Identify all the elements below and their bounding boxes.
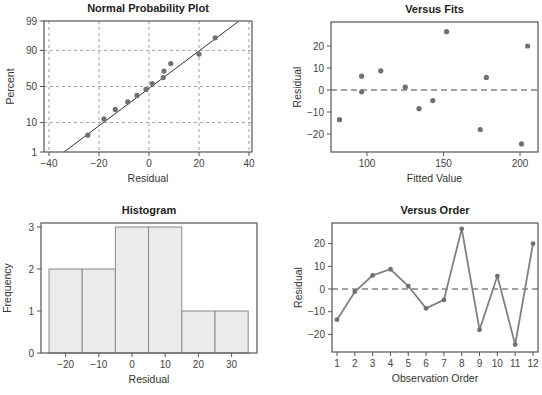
data-point — [444, 29, 449, 34]
x-tick-label: 40 — [243, 158, 255, 169]
y-tick-label: −20 — [307, 129, 324, 140]
chart-title: Normal Probability Plot — [87, 2, 209, 14]
x-tick-label: 100 — [359, 158, 376, 169]
x-tick-label: 200 — [512, 158, 529, 169]
y-tick-label: 10 — [26, 117, 38, 128]
y-tick-label: −10 — [307, 107, 324, 118]
data-point — [352, 289, 357, 294]
data-point — [525, 43, 530, 48]
histogram-bar — [115, 227, 148, 353]
data-point — [430, 98, 435, 103]
x-tick-label: 4 — [388, 358, 394, 369]
residual-series-line — [337, 229, 533, 345]
y-axis-label: Residual — [292, 267, 304, 308]
y-axis-label: Percent — [4, 68, 16, 104]
data-point — [113, 107, 118, 112]
x-axis-label: Observation Order — [392, 372, 479, 384]
chart-title: Histogram — [122, 204, 177, 216]
data-point — [335, 317, 340, 322]
x-tick-label: 10 — [160, 359, 172, 370]
x-tick-label: 5 — [405, 358, 411, 369]
data-point — [442, 297, 447, 302]
data-point — [196, 52, 201, 57]
histogram-bar — [149, 227, 182, 353]
data-point — [477, 327, 482, 332]
histogram-plot: HistogramResidualFrequency−20−1001020300… — [1, 204, 257, 385]
data-point — [424, 306, 429, 311]
data-point — [85, 133, 90, 138]
x-tick-label: 0 — [129, 359, 135, 370]
y-tick-label: 3 — [28, 222, 34, 233]
x-tick-label: 7 — [441, 358, 447, 369]
y-tick-label: 1 — [31, 147, 37, 158]
x-tick-label: −20 — [57, 359, 74, 370]
data-point — [101, 116, 106, 121]
y-tick-label: −20 — [308, 329, 325, 340]
y-tick-label: 1 — [28, 306, 34, 317]
data-point — [388, 267, 393, 272]
data-point — [459, 226, 464, 231]
versus-order-plot: Versus OrderObservation OrderResidual123… — [292, 204, 539, 384]
x-tick-label: 1 — [334, 358, 340, 369]
data-point — [403, 85, 408, 90]
data-point — [213, 35, 218, 40]
x-tick-label: 3 — [370, 358, 376, 369]
data-point — [143, 87, 148, 92]
data-point — [531, 241, 536, 246]
y-axis-label: Frequency — [1, 262, 13, 312]
data-point — [359, 74, 364, 79]
data-point — [513, 342, 518, 347]
x-axis-label: Residual — [128, 172, 169, 184]
x-tick-label: −10 — [90, 359, 107, 370]
chart-title: Versus Fits — [405, 3, 464, 15]
x-tick-label: 2 — [352, 358, 358, 369]
y-tick-label: 90 — [26, 45, 38, 56]
x-tick-label: 6 — [423, 358, 429, 369]
x-tick-label: 0 — [146, 158, 152, 169]
normal-probability-plot: Normal Probability PlotResidualPercent−4… — [4, 2, 255, 184]
x-tick-label: −40 — [41, 158, 58, 169]
grid-lines — [44, 21, 252, 152]
chart-title: Versus Order — [400, 204, 470, 216]
data-point — [495, 274, 500, 279]
versus-fits-plot: Versus FitsFitted ValueResidual100150200… — [291, 3, 538, 184]
data-point — [359, 89, 364, 94]
y-tick-label: 0 — [28, 348, 34, 359]
x-axis-label: Fitted Value — [407, 172, 462, 184]
data-point — [161, 75, 166, 80]
data-point — [370, 273, 375, 278]
data-point — [378, 68, 383, 73]
data-point — [519, 141, 524, 146]
data-point — [416, 106, 421, 111]
x-tick-label: 9 — [477, 358, 483, 369]
y-tick-label: 0 — [319, 284, 325, 295]
data-point — [484, 75, 489, 80]
x-tick-label: 150 — [435, 158, 452, 169]
histogram-bar — [215, 311, 248, 353]
y-tick-label: 10 — [314, 261, 326, 272]
data-point — [134, 93, 139, 98]
data-point — [161, 68, 166, 73]
y-tick-label: 50 — [26, 81, 38, 92]
data-point — [125, 99, 130, 104]
y-tick-label: 0 — [318, 85, 324, 96]
data-point — [168, 61, 173, 66]
y-tick-label: 2 — [28, 264, 34, 275]
x-axis-label: Residual — [129, 373, 170, 385]
x-tick-label: 11 — [510, 358, 521, 369]
y-tick-label: −10 — [308, 306, 325, 317]
residual-plots-figure: Normal Probability PlotResidualPercent−4… — [0, 0, 542, 395]
histogram-bar — [182, 311, 215, 353]
histogram-bar — [82, 269, 115, 353]
x-tick-label: 20 — [193, 158, 205, 169]
data-point — [478, 127, 483, 132]
y-tick-label: 20 — [313, 41, 325, 52]
x-tick-label: 10 — [492, 358, 504, 369]
x-tick-label: 12 — [527, 358, 539, 369]
x-tick-label: 8 — [459, 358, 465, 369]
x-tick-label: 30 — [226, 359, 238, 370]
y-axis-label: Residual — [291, 67, 303, 108]
y-tick-label: 99 — [26, 16, 38, 27]
histogram-bar — [49, 269, 82, 353]
y-tick-label: 10 — [313, 63, 325, 74]
